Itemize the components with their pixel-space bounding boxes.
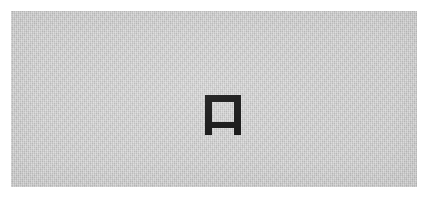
bench-square-glyph-svg bbox=[205, 95, 241, 135]
background-panel bbox=[11, 11, 417, 187]
glyph-bottom-bar bbox=[205, 122, 241, 128]
glyph-right-upright bbox=[234, 95, 241, 135]
glyph-left-upright bbox=[205, 95, 212, 135]
screenshot-canvas bbox=[0, 0, 430, 197]
bench-square-glyph-icon bbox=[205, 95, 241, 135]
